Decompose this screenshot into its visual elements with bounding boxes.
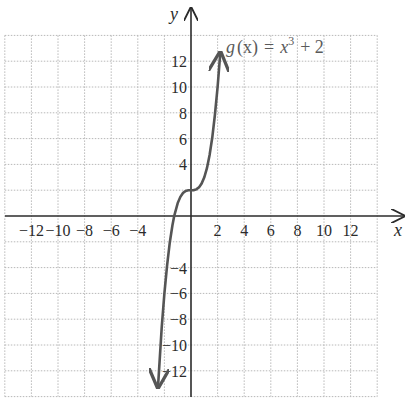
y-tick-label: 10 xyxy=(171,79,187,96)
y-tick-label: 12 xyxy=(171,53,187,70)
x-tick-label: −12 xyxy=(19,222,44,239)
x-tick-label: 8 xyxy=(293,222,301,239)
y-tick-label: −8 xyxy=(170,311,187,328)
y-tick-label: 6 xyxy=(179,131,187,148)
x-axis-label: x xyxy=(393,220,402,240)
y-axis-label: y xyxy=(168,4,178,24)
y-tick-label: 4 xyxy=(179,156,187,173)
x-tick-label: −4 xyxy=(129,222,146,239)
y-tick-label: −4 xyxy=(170,260,187,277)
y-tick-label: −6 xyxy=(170,285,187,302)
y-tick-label: −10 xyxy=(162,337,187,354)
x-tick-label: −10 xyxy=(45,222,70,239)
function-label: g(x)=x3+ 2 xyxy=(226,34,324,58)
x-tick-label: 6 xyxy=(267,222,275,239)
cubic-function-graph: x y −12−10−8−6−424681012 1210864−4−6−8−1… xyxy=(0,0,414,411)
x-tick-label: 12 xyxy=(343,222,359,239)
y-tick-label: −12 xyxy=(162,363,187,380)
x-tick-labels: −12−10−8−6−424681012 xyxy=(19,222,359,239)
x-tick-label: −8 xyxy=(76,222,93,239)
x-tick-label: 10 xyxy=(316,222,332,239)
y-tick-label: 8 xyxy=(179,105,187,122)
x-tick-label: −6 xyxy=(103,222,120,239)
x-tick-label: 2 xyxy=(214,222,222,239)
x-tick-label: 4 xyxy=(240,222,248,239)
